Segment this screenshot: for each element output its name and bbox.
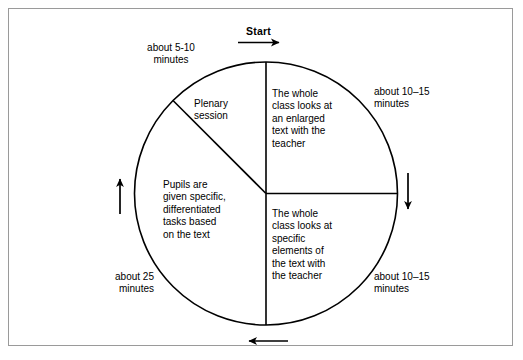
duration-label-specific-elements: about 10–15 minutes (374, 271, 470, 296)
segment-text-whole-class-enlarged: The whole class looks at an enlarged tex… (272, 88, 356, 150)
segment-text-whole-class-specific: The whole class looks at specific elemen… (272, 208, 356, 282)
duration-label-pupil-tasks: about 25 minutes (60, 271, 154, 296)
segment-text-plenary-session: Plenary session (194, 98, 260, 123)
duration-label-plenary: about 5-10 minutes (128, 42, 214, 67)
segment-text-pupil-tasks: Pupils are given specific, differentiate… (163, 179, 267, 241)
figure-root: Start about 5-10 minutes about 10–15 min… (0, 0, 523, 360)
start-label: Start (246, 25, 271, 37)
duration-label-enlarged-text: about 10–15 minutes (374, 86, 470, 111)
